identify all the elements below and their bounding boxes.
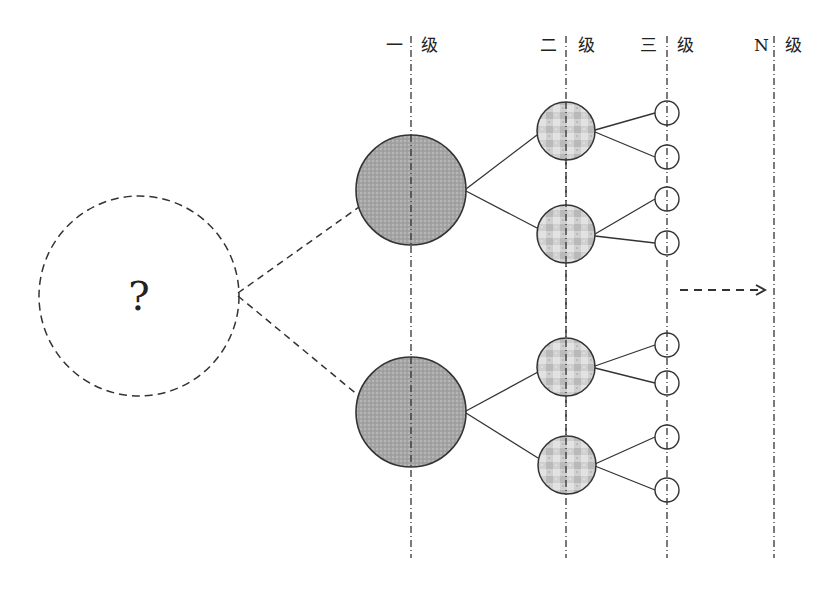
root-to-upper-connector <box>238 207 359 293</box>
connector <box>466 372 538 411</box>
connector <box>466 135 537 189</box>
level-n-prefix: N <box>754 35 769 55</box>
level2-node <box>538 436 596 494</box>
connector <box>595 368 655 383</box>
connector <box>595 437 655 464</box>
continuation-arrow <box>680 285 765 295</box>
connector <box>595 199 655 234</box>
level-n-suffix: 级 <box>785 35 802 55</box>
level3-nodes <box>655 101 679 502</box>
connector <box>595 132 655 157</box>
level1-connectors <box>466 135 538 458</box>
root-connectors <box>238 207 359 396</box>
root-to-lower-connector <box>238 296 359 396</box>
connector <box>595 345 655 366</box>
level-labels: 一 级 二 级 三 级 N 级 <box>386 35 802 55</box>
level-3-suffix: 级 <box>677 35 694 55</box>
connector <box>595 466 655 490</box>
connector <box>466 191 537 228</box>
level-1-suffix: 级 <box>421 35 438 55</box>
connector <box>595 113 655 130</box>
connector <box>595 236 655 243</box>
level-2-prefix: 二 <box>540 35 557 55</box>
level-1-prefix: 一 <box>386 35 403 55</box>
connector <box>466 413 538 458</box>
level-3-prefix: 三 <box>640 35 657 55</box>
hierarchy-diagram: 一 级 二 级 三 级 N 级 ? <box>0 0 834 595</box>
level2-connectors <box>595 113 655 490</box>
root-node: ? <box>39 196 239 396</box>
level-2-suffix: 级 <box>578 35 595 55</box>
unknown-question-mark: ? <box>128 273 149 319</box>
